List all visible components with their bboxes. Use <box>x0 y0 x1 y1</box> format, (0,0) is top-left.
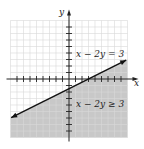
line-equation-label: x − 2y = 3 <box>76 49 124 59</box>
inequality-graph: y x x − 2y = 3 x − 2y ≥ 3 <box>0 0 144 149</box>
labels-layer: y x x − 2y = 3 x − 2y ≥ 3 <box>0 0 144 149</box>
x-axis-label: x <box>134 78 139 88</box>
y-axis-label: y <box>58 7 65 17</box>
inequality-label: x − 2y ≥ 3 <box>76 99 124 109</box>
